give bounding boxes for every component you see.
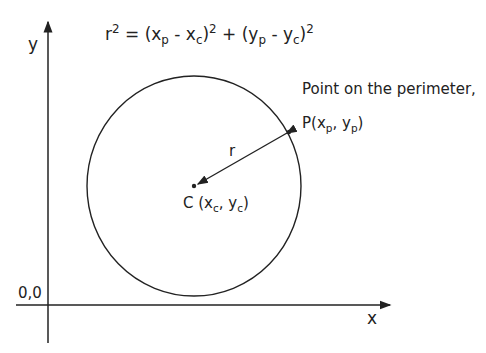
y-axis-label: y (28, 34, 38, 54)
origin-label: 0,0 (18, 284, 42, 302)
radius-label: r (229, 142, 235, 160)
diagram-canvas (0, 0, 486, 353)
center-point (192, 184, 196, 188)
radius-arrow (198, 133, 287, 184)
circle-equation: r2 = (xp - xc)2 + (yp - yc)2 (105, 22, 314, 47)
x-axis-label: x (367, 308, 377, 328)
perimeter-point (287, 130, 291, 134)
point-p-label: P(xp, yp) (302, 114, 363, 134)
perimeter-caption: Point on the perimeter, (302, 80, 476, 98)
center-label: C (xc, yc) (183, 194, 249, 214)
